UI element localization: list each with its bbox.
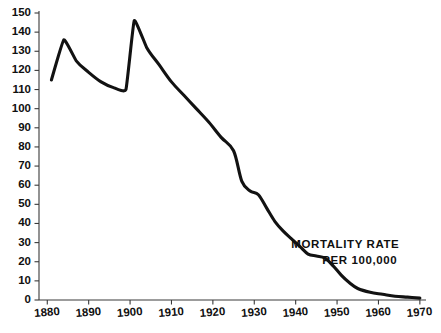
x-tick-label: 1900	[116, 305, 143, 319]
y-tick-label: 20	[18, 255, 31, 267]
y-tick-label: 110	[12, 83, 31, 95]
y-tick-label: 50	[18, 197, 31, 209]
x-tick-label: 1930	[241, 305, 268, 319]
y-tick-label: 140	[12, 25, 31, 37]
annotation-label-2: PER 100,000	[322, 254, 397, 266]
chart-svg: 0102030405060708090100110120130140150 18…	[0, 0, 441, 333]
y-tick-label: 70	[18, 159, 31, 171]
x-tick-label: 1920	[199, 305, 226, 319]
x-axis: 1880189019001910192019301940195019601970	[34, 300, 433, 319]
x-tick-label: 1950	[323, 305, 350, 319]
y-tick-label: 0	[25, 293, 31, 305]
y-tick-label: 60	[18, 178, 31, 190]
y-tick-label: 90	[18, 121, 31, 133]
x-tick-label: 1890	[75, 305, 102, 319]
chart-container: 0102030405060708090100110120130140150 18…	[0, 0, 441, 333]
x-tick-label: 1970	[406, 305, 433, 319]
y-tick-label: 150	[12, 6, 31, 18]
x-tick-label: 1910	[158, 305, 185, 319]
y-tick-label: 80	[18, 140, 31, 152]
y-tick-label: 40	[18, 216, 31, 228]
annotation-label-1: MORTALITY RATE	[291, 238, 399, 250]
x-tick-label: 1960	[365, 305, 392, 319]
y-axis: 0102030405060708090100110120130140150	[12, 6, 39, 305]
x-tick-label: 1880	[34, 305, 61, 319]
y-tick-label: 130	[12, 44, 31, 56]
y-tick-label: 120	[12, 63, 31, 75]
y-tick-label: 100	[12, 102, 31, 114]
y-tick-label: 30	[18, 236, 31, 248]
x-tick-label: 1940	[282, 305, 309, 319]
y-tick-label: 10	[18, 274, 31, 286]
